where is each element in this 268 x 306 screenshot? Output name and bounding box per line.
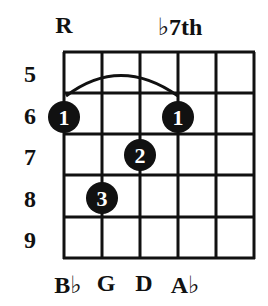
finger-dot-2: 2 <box>124 139 156 171</box>
string-label-aflat: A♭ <box>171 270 200 299</box>
svg-text:1: 1 <box>59 105 70 130</box>
finger-dot-1-string-0: 1 <box>48 101 80 133</box>
string-label-d: D <box>135 270 152 297</box>
finger-dot-1-string-3: 1 <box>162 101 194 133</box>
string-label-bflat: B♭ <box>54 270 81 299</box>
fretboard-grid: 1 1 2 3 <box>0 0 268 306</box>
finger-dot-3: 3 <box>86 182 118 214</box>
svg-text:3: 3 <box>97 186 108 211</box>
svg-text:2: 2 <box>135 143 146 168</box>
string-label-g: G <box>97 270 116 297</box>
svg-text:1: 1 <box>173 105 184 130</box>
